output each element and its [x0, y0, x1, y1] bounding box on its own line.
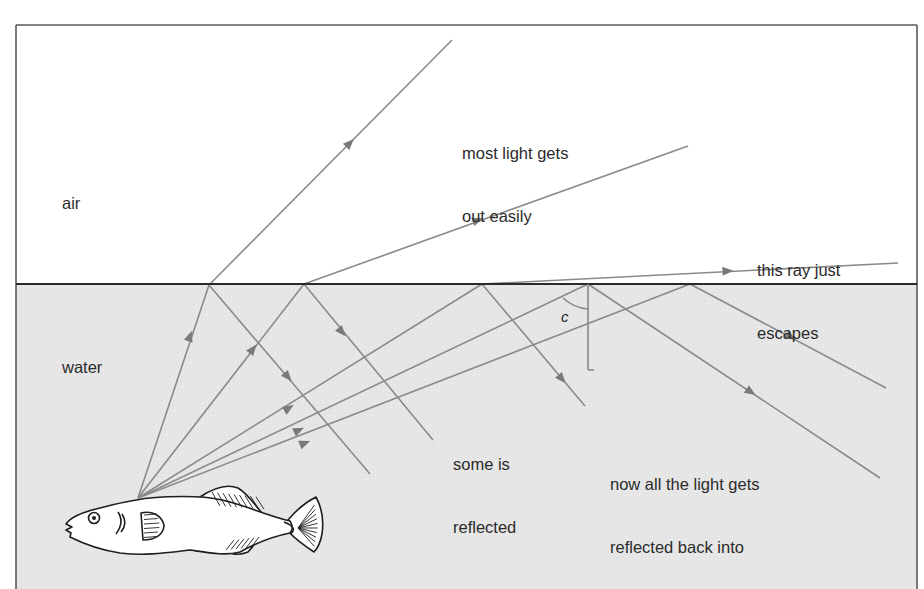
- partial-reflection-line-2: reflected: [453, 517, 516, 538]
- grazing-annotation-line-1: this ray just: [757, 260, 840, 281]
- grazing-annotation: this ray just escapes: [757, 218, 840, 386]
- fish-pupil: [92, 516, 96, 520]
- partial-reflection-line-1: some is: [453, 454, 516, 475]
- refracted-annotation: most light gets out easily: [462, 101, 568, 269]
- water-label: water: [62, 357, 102, 378]
- grazing-annotation-line-2: escapes: [757, 323, 840, 344]
- refracted-annotation-line-2: out easily: [462, 206, 568, 227]
- tir-diagram: air water most light gets out easily thi…: [0, 0, 924, 589]
- air-label: air: [62, 193, 80, 214]
- tir-annotation-line-1: now all the light gets: [610, 474, 802, 495]
- tir-annotation-line-2: reflected back into: [610, 537, 802, 558]
- refracted-annotation-line-1: most light gets: [462, 143, 568, 164]
- critical-angle-label: c: [561, 306, 569, 327]
- tir-annotation: now all the light gets reflected back in…: [610, 432, 802, 589]
- partial-reflection-annotation: some is reflected: [453, 412, 516, 580]
